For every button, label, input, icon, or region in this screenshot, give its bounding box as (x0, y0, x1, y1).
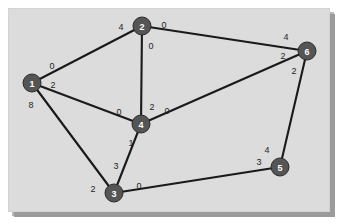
graph-node-4-label: 4 (138, 120, 143, 130)
graph-canvas: 042082020402310342 123456 (9, 9, 331, 213)
edge-1-2-label-from: 0 (49, 61, 54, 71)
graph-node-3-label: 3 (111, 189, 116, 199)
edge-1-4-label-from: 2 (50, 80, 55, 90)
graph-node-3[interactable]: 3 (105, 184, 123, 202)
graph-node-1-label: 1 (29, 79, 34, 89)
graph-panel: 042082020402310342 123456 (8, 8, 330, 212)
edge-3-5-label-to: 3 (256, 157, 261, 167)
edge-1-3-label-to: 2 (90, 184, 95, 194)
graph-node-1[interactable]: 1 (23, 74, 41, 92)
edge-5-6-label-to: 2 (291, 66, 296, 76)
graph-node-4[interactable]: 4 (132, 115, 150, 133)
edge-1-2-label-to: 4 (118, 22, 123, 32)
edge-2-4 (141, 26, 142, 124)
edge-1-4-label-to: 0 (116, 107, 121, 117)
graph-node-6-label: 6 (304, 47, 309, 57)
edge-3-4-label-from: 3 (113, 161, 118, 171)
edge-3-4-label-to: 1 (128, 138, 133, 148)
graph-node-2-label: 2 (139, 22, 144, 32)
edge-1-3-label-from: 8 (28, 100, 33, 110)
edge-2-6-label-to: 4 (283, 32, 288, 42)
edge-4-6-label-from: 0 (164, 106, 169, 116)
graph-node-5-label: 5 (277, 163, 282, 173)
screenshot-root: 042082020402310342 123456 (0, 0, 341, 223)
edge-2-4-label-from: 0 (148, 41, 153, 51)
edge-2-6 (142, 26, 307, 51)
edge-2-4-label-to: 2 (149, 102, 154, 112)
edge-1-2 (32, 26, 142, 83)
edge-2-6-label-from: 0 (161, 20, 166, 30)
graph-node-2[interactable]: 2 (133, 17, 151, 35)
edge-3-5-label-from: 0 (136, 181, 141, 191)
graph-node-6[interactable]: 6 (298, 42, 316, 60)
edge-labels-group: 042082020402310342 (28, 20, 296, 194)
edge-4-6-label-to: 2 (280, 51, 285, 61)
graph-node-5[interactable]: 5 (271, 158, 289, 176)
edge-5-6-label-from: 4 (264, 145, 269, 155)
